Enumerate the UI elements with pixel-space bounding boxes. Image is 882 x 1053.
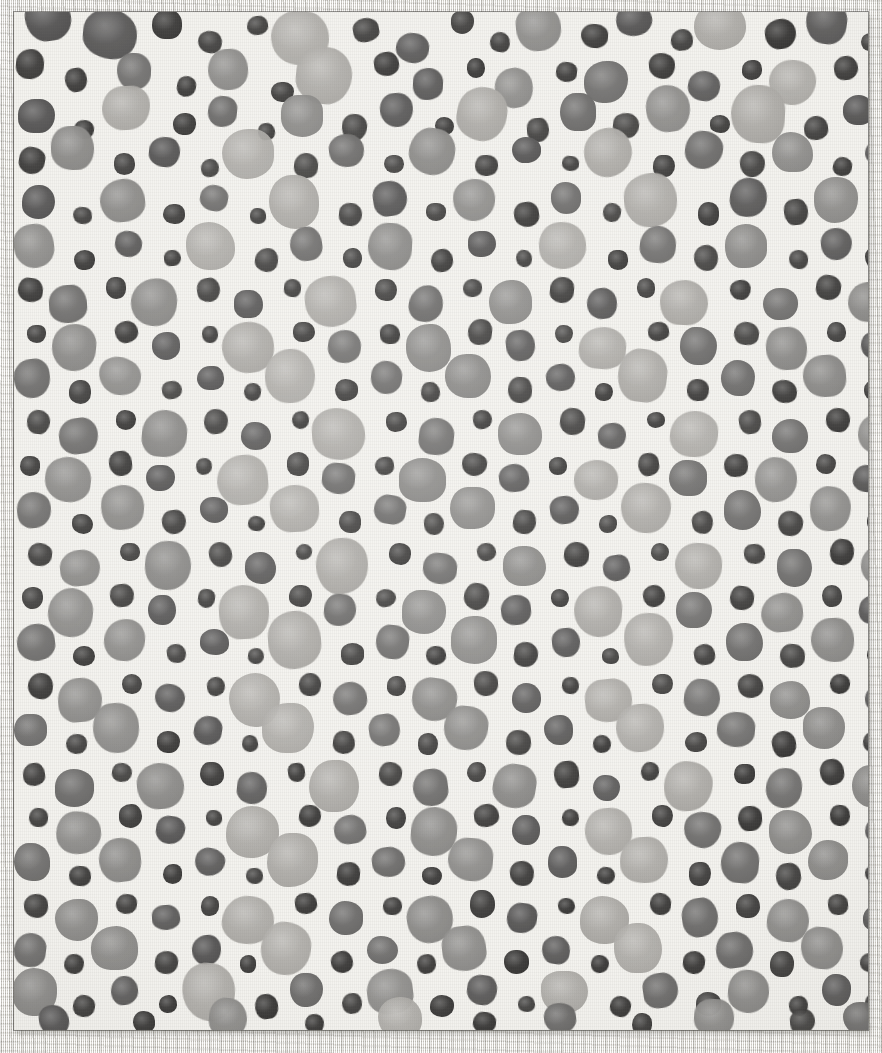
pattern-dot: [643, 82, 693, 134]
pattern-dot: [262, 703, 314, 753]
pattern-dot: [56, 415, 100, 456]
pattern-dot: [18, 99, 55, 134]
pattern-dot: [467, 762, 486, 781]
pattern-dot: [113, 319, 139, 344]
pattern-dot: [197, 366, 224, 391]
pattern-dot: [467, 58, 485, 77]
pattern-dot: [863, 905, 869, 930]
pattern-dot: [819, 226, 853, 261]
pattern-dot: [549, 276, 576, 304]
pattern-dot: [48, 284, 88, 324]
pattern-dot: [467, 318, 494, 347]
pattern-dot: [109, 974, 138, 1005]
pattern-dot: [369, 360, 403, 396]
pattern-dot: [235, 771, 268, 806]
pattern-dot: [382, 896, 403, 916]
pattern-dot: [128, 275, 180, 328]
pattern-dot: [673, 542, 722, 590]
pattern-dot: [298, 672, 322, 697]
pattern-dot: [861, 33, 869, 51]
pattern-dot: [737, 409, 762, 435]
pattern-dot: [200, 629, 229, 655]
pattern-dot: [15, 491, 53, 530]
pattern-dot: [462, 581, 490, 611]
pattern-dot: [309, 760, 359, 813]
pattern-dot: [394, 31, 430, 65]
pattern-dot: [55, 899, 98, 940]
pattern-dot: [659, 278, 709, 325]
pattern-dot: [98, 177, 147, 223]
pattern-dot: [852, 765, 869, 806]
pattern-dot: [580, 23, 608, 49]
pattern-dot: [622, 172, 678, 228]
pattern-dot: [451, 616, 497, 664]
pattern-dot: [515, 249, 533, 268]
pattern-dot: [245, 867, 263, 884]
pattern-dot: [816, 454, 836, 474]
pattern-dot: [517, 995, 535, 1012]
pattern-dot: [514, 12, 563, 53]
pattern-dot: [601, 553, 632, 583]
pattern-dot: [764, 325, 808, 371]
pattern-dot: [331, 680, 369, 717]
pattern-dot: [339, 511, 361, 533]
pattern-dot: [511, 509, 536, 536]
pattern-dot: [726, 969, 770, 1015]
pattern-dot: [803, 12, 850, 47]
pattern-dot: [742, 60, 762, 80]
pattern-dot: [14, 357, 52, 400]
pattern-dot: [512, 815, 540, 844]
pattern-dot: [27, 325, 46, 343]
pattern-dot: [503, 546, 546, 586]
pattern-dot: [439, 923, 488, 973]
pattern-dot: [682, 950, 706, 975]
pattern-dot: [73, 646, 95, 667]
pattern-dot: [14, 222, 57, 271]
pattern-dot: [736, 672, 764, 700]
pattern-dot: [22, 12, 74, 44]
pattern-dot: [289, 585, 312, 607]
pattern-dot: [295, 543, 313, 561]
pattern-dot: [146, 465, 175, 491]
pattern-dot: [165, 643, 187, 665]
pattern-dot: [681, 810, 723, 850]
pattern-dot: [200, 497, 228, 523]
pattern-dot: [670, 28, 694, 52]
pattern-dot: [452, 178, 497, 223]
pattern-dot: [860, 331, 868, 361]
pattern-dot: [770, 729, 798, 758]
pattern-dot: [375, 279, 397, 301]
pattern-dot: [648, 892, 671, 916]
pattern-dot: [865, 247, 868, 268]
pattern-dot: [472, 803, 499, 829]
pattern-dot: [504, 950, 529, 975]
pattern-dot: [512, 137, 541, 163]
pattern-dot: [729, 585, 755, 612]
pattern-dot: [374, 624, 410, 661]
pattern-dot: [818, 758, 845, 787]
pattern-dot: [551, 626, 581, 657]
pattern-dot: [154, 814, 187, 846]
pattern-dot: [370, 845, 407, 879]
pattern-dot: [159, 995, 177, 1013]
pattern-dot: [648, 52, 676, 80]
pattern-dot: [734, 764, 755, 785]
pattern-dot: [549, 457, 567, 475]
pattern-dot: [864, 139, 868, 166]
pattern-dot: [16, 276, 44, 303]
pattern-dot: [825, 407, 851, 433]
pattern-dot: [475, 542, 496, 562]
pattern-dot: [602, 648, 619, 664]
pattern-dot: [474, 155, 498, 177]
pattern-dot: [190, 934, 221, 966]
pattern-dot: [99, 484, 146, 533]
pattern-dot: [669, 460, 707, 497]
pattern-dot: [552, 760, 579, 789]
pattern-dot: [20, 456, 40, 476]
pattern-dot: [851, 463, 868, 493]
pattern-dot: [470, 890, 495, 917]
pattern-dot: [423, 512, 445, 535]
pattern-dot: [116, 410, 136, 430]
pattern-dot: [763, 17, 797, 51]
pattern-dot: [548, 846, 577, 877]
